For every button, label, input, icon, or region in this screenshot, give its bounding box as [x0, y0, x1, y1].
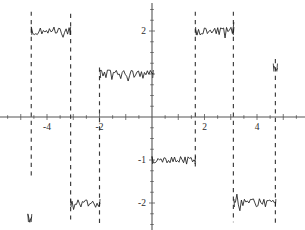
plot-canvas: -4-2242-1-2 — [0, 0, 305, 230]
y-tick-label: -2 — [138, 198, 146, 208]
plateau-edge-whisker — [153, 70, 154, 78]
x-tick-label: -2 — [96, 122, 104, 132]
plateau-branch — [152, 157, 196, 164]
x-tick-label: 2 — [202, 122, 207, 132]
plateau-edge-whisker — [31, 214, 32, 222]
plateau-edge-whisker — [273, 64, 274, 72]
y-tick-label: -1 — [138, 155, 146, 165]
plateau-branch — [100, 70, 153, 81]
plateau-edge-whisker — [196, 27, 197, 35]
function-plot: -4-2242-1-2 — [0, 0, 305, 230]
plateau-branch — [71, 200, 100, 210]
x-tick-label: 4 — [255, 122, 260, 132]
x-tick-label: -4 — [43, 122, 51, 132]
plateau-edge-whisker — [234, 199, 235, 207]
plateau-branch — [31, 27, 70, 38]
plateau-edge-whisker — [277, 64, 278, 72]
asymptote-lines-group — [31, 12, 275, 227]
y-tick-label: 2 — [141, 26, 146, 36]
plateau-branch — [196, 22, 234, 38]
plateau-edge-whisker — [100, 70, 101, 78]
axes-group — [0, 3, 305, 230]
plateau-branch — [234, 194, 276, 211]
